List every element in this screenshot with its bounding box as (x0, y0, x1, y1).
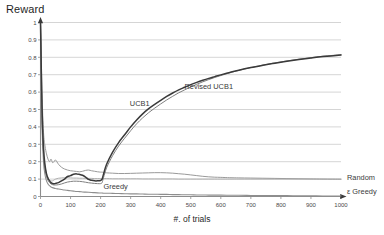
y-tick-label: 0 (33, 194, 37, 200)
x-tick-label: 100 (66, 202, 77, 208)
series-annotation: ε Greedy (347, 187, 377, 196)
y-tick-label: 0.4 (28, 124, 37, 130)
series-annotation: Random (347, 173, 375, 182)
x-axis-label: #. of trials (0, 214, 384, 224)
y-tick-label: 0.3 (28, 142, 37, 148)
chart-plot-area: 00.10.20.30.40.50.60.70.80.9101002003004… (0, 0, 384, 235)
y-tick-label: 0.8 (28, 55, 37, 61)
x-tick-label: 800 (276, 202, 287, 208)
x-tick-label: 900 (306, 202, 317, 208)
series-annotation: Revised UCB1 (185, 82, 233, 91)
series-annotation: UCB1 (130, 99, 150, 108)
y-axis-label: Reward (6, 3, 45, 15)
x-tick-label: 400 (156, 202, 167, 208)
reward-vs-trials-chart: Reward 00.10.20.30.40.50.60.70.80.910100… (0, 0, 384, 235)
x-tick-label: 1000 (334, 202, 348, 208)
series-line-ucb1 (41, 23, 342, 184)
y-tick-label: 0.2 (28, 159, 37, 165)
x-tick-label: 0 (39, 202, 43, 208)
series-line-random (41, 23, 342, 181)
y-tick-label: 0.7 (28, 72, 37, 78)
series-line-revised-ucb1 (41, 23, 342, 186)
series-line-greedy (41, 23, 342, 180)
y-tick-label: 0.1 (28, 176, 37, 182)
x-tick-label: 600 (216, 202, 227, 208)
x-tick-label: 500 (186, 202, 197, 208)
series-annotation: Greedy (104, 182, 129, 191)
y-tick-label: 0.6 (28, 89, 37, 95)
x-tick-label: 300 (126, 202, 137, 208)
y-tick-label: 1 (33, 20, 37, 26)
y-tick-label: 0.9 (28, 37, 37, 43)
y-tick-label: 0.5 (28, 107, 37, 113)
x-tick-label: 700 (246, 202, 257, 208)
x-tick-label: 200 (96, 202, 107, 208)
